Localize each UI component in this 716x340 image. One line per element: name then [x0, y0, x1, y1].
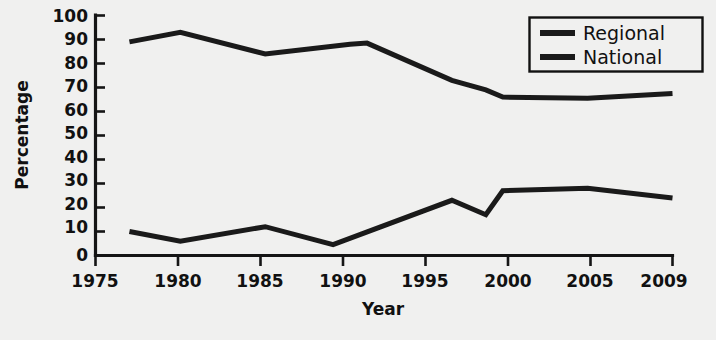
chart-figure: Percentage 100 90 80 70 60 50 40 30 20 1…	[0, 0, 716, 340]
x-tick-label: 2000	[484, 271, 531, 291]
y-tick-label: 70	[64, 76, 88, 96]
x-tick-label: 1990	[319, 271, 366, 291]
y-tick-label: 100	[53, 6, 89, 26]
y-axis	[95, 15, 105, 256]
x-tick-label: 1980	[154, 271, 201, 291]
x-axis	[96, 255, 673, 266]
y-tick-label: 0	[76, 245, 88, 265]
x-tick-label: 1975	[71, 271, 118, 291]
x-tick-label: 2005	[566, 271, 613, 291]
y-axis-title: Percentage	[12, 80, 32, 189]
y-tick-label: 80	[64, 53, 88, 73]
y-axis-tick-labels: 100 90 80 70 60 50 40 30 20 10 0	[53, 6, 89, 265]
chart-legend: Regional National	[530, 18, 703, 72]
y-tick-label: 10	[64, 217, 88, 237]
x-tick-label: 2009	[640, 271, 687, 291]
legend-label-national: National	[583, 46, 662, 68]
line-chart-plot: Percentage 100 90 80 70 60 50 40 30 20 1…	[0, 0, 716, 340]
y-tick-label: 90	[64, 29, 88, 49]
series-line-national	[129, 188, 672, 244]
y-tick-label: 40	[64, 147, 88, 167]
x-axis-title: Year	[361, 299, 405, 319]
legend-label-regional: Regional	[583, 22, 665, 44]
x-tick-label: 1995	[401, 271, 448, 291]
y-tick-label: 60	[64, 100, 88, 120]
x-tick-label: 1985	[236, 271, 283, 291]
y-tick-label: 20	[64, 194, 88, 214]
y-tick-label: 30	[64, 170, 88, 190]
y-tick-label: 50	[64, 123, 88, 143]
x-axis-tick-labels: 1975 1980 1985 1990 1995 2000 2005 2009	[71, 271, 687, 291]
